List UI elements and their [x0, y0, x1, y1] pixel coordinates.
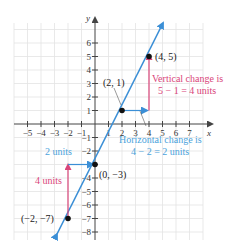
- svg-text:3: 3: [87, 79, 92, 89]
- leader-2-1: [114, 88, 121, 105]
- svg-text:−6: −6: [81, 200, 91, 210]
- svg-text:−7: −7: [81, 214, 91, 224]
- point-4-5: [146, 54, 152, 60]
- label-neg2-neg7: (−2, −7): [21, 213, 54, 225]
- x-axis-label: x: [206, 128, 211, 138]
- svg-text:−3: −3: [50, 128, 60, 138]
- svg-text:5: 5: [87, 52, 92, 62]
- vertical-change-text-1: Vertical change is: [152, 73, 223, 84]
- point-2-1: [119, 108, 125, 114]
- svg-text:−5: −5: [81, 187, 91, 197]
- horizontal-change-text-2: 4 − 2 = 2 units: [131, 146, 189, 157]
- svg-text:−2: −2: [81, 146, 91, 156]
- point-0-neg3: [92, 162, 98, 168]
- y-axis-label: y: [85, 13, 90, 23]
- horizontal-change-text-1: Horizontal change is: [119, 134, 202, 145]
- label-4-5: (4, 5): [155, 51, 177, 63]
- four-units-text: 4 units: [35, 175, 62, 186]
- svg-text:1: 1: [87, 106, 92, 116]
- svg-text:−4: −4: [36, 128, 46, 138]
- svg-text:−5: −5: [23, 128, 33, 138]
- svg-text:2: 2: [87, 92, 92, 102]
- label-2-1: (2, 1): [103, 77, 125, 89]
- label-0-neg3: (0, −3): [99, 169, 126, 181]
- two-units-text: 2 units: [45, 146, 72, 157]
- y-tick-labels: 654 321 −1−2−4 −5−6−7 −8: [81, 38, 91, 237]
- svg-text:−1: −1: [81, 133, 91, 143]
- svg-text:6: 6: [87, 38, 92, 48]
- svg-text:4: 4: [87, 65, 92, 75]
- vertical-change-text-2: 5 − 1 = 4 units: [158, 85, 216, 96]
- point-neg2-neg7: [65, 216, 71, 222]
- slope-graph: −5−4−3 −2−11 234 567 654 321 −1−2−4 −5−6…: [0, 0, 245, 251]
- svg-text:−2: −2: [63, 128, 73, 138]
- svg-text:−8: −8: [81, 227, 91, 237]
